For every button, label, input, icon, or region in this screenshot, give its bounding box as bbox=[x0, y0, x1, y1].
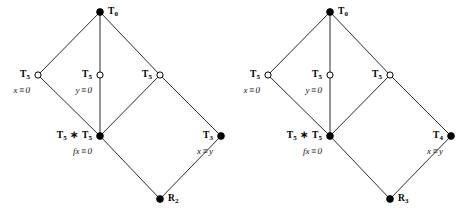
label-equation-T3: x≡y bbox=[197, 147, 213, 156]
label-subscript: 0 bbox=[344, 10, 348, 18]
equation-rhs: 0 bbox=[26, 85, 31, 95]
label-operator-star: ∗ bbox=[67, 130, 82, 140]
label-subscript-2: 5 bbox=[318, 134, 322, 142]
label-subscript: 3 bbox=[405, 197, 409, 205]
label-main-R3: R3 bbox=[398, 194, 409, 205]
label-equation-T5xT5: fx≡0 bbox=[57, 147, 92, 156]
label-T5-x: T5x≡0 bbox=[243, 70, 260, 95]
label-T5-y: T5y≡0 bbox=[75, 70, 92, 95]
equation-rhs: 0 bbox=[88, 85, 93, 95]
label-main-T5-r: T5 bbox=[142, 70, 152, 81]
label-main-R2: R2 bbox=[168, 194, 179, 205]
label-main-T5xT5: T5 ∗ T5 bbox=[287, 131, 322, 142]
equation-equiv-operator: ≡ bbox=[17, 85, 25, 95]
label-main-T4: T4 bbox=[427, 131, 443, 142]
label-main-T5-r: T5 bbox=[372, 70, 382, 81]
label-subscript-2: 5 bbox=[88, 134, 92, 142]
label-equation-T5-y: y≡0 bbox=[305, 86, 322, 95]
right-diagram: T0T5x≡0T5y≡0T5T5 ∗ T5fx≡0T4x≡yR3 bbox=[230, 0, 466, 221]
label-equation-T5-x: x≡0 bbox=[13, 86, 30, 95]
label-T3: T3x≡y bbox=[197, 131, 213, 156]
label-main-T3: T3 bbox=[197, 131, 213, 142]
label-T4: T4x≡y bbox=[427, 131, 443, 156]
label-main-T0: T0 bbox=[338, 7, 348, 18]
label-operator-star: ∗ bbox=[297, 130, 312, 140]
label-equation-T5-y: y≡0 bbox=[75, 86, 92, 95]
label-subscript: 5 bbox=[256, 73, 260, 81]
label-main-T5-y: T5 bbox=[305, 70, 322, 81]
label-T5-x: T5x≡0 bbox=[13, 70, 30, 95]
label-layer: T0T5x≡0T5y≡0T5T5 ∗ T5fx≡0T3x≡yR2 bbox=[0, 0, 236, 221]
label-main-T5xT5: T5 ∗ T5 bbox=[57, 131, 92, 142]
label-subscript: 5 bbox=[26, 73, 30, 81]
left-diagram: T0T5x≡0T5y≡0T5T5 ∗ T5fx≡0T3x≡yR2 bbox=[0, 0, 236, 221]
equation-rhs: 0 bbox=[318, 85, 323, 95]
label-layer: T0T5x≡0T5y≡0T5T5 ∗ T5fx≡0T4x≡yR3 bbox=[230, 0, 466, 221]
label-equation-T5xT5: fx≡0 bbox=[287, 147, 322, 156]
equation-equiv-operator: ≡ bbox=[309, 85, 317, 95]
label-main-T5-y: T5 bbox=[75, 70, 92, 81]
label-subscript: 5 bbox=[378, 73, 382, 81]
equation-equiv-operator: ≡ bbox=[79, 146, 87, 156]
label-subscript: 5 bbox=[88, 73, 92, 81]
equation-equiv-operator: ≡ bbox=[79, 85, 87, 95]
equation-rhs: 0 bbox=[256, 85, 261, 95]
equation-rhs: y bbox=[209, 146, 213, 156]
label-R2: R2 bbox=[168, 194, 179, 205]
label-equation-T5-x: x≡0 bbox=[243, 86, 260, 95]
equation-rhs: y bbox=[439, 146, 443, 156]
label-T5-r: T5 bbox=[372, 70, 382, 81]
label-T5xT5: T5 ∗ T5fx≡0 bbox=[57, 131, 92, 156]
label-R3: R3 bbox=[398, 194, 409, 205]
equation-equiv-operator: ≡ bbox=[201, 146, 209, 156]
label-T0: T0 bbox=[338, 7, 348, 18]
label-subscript: 2 bbox=[175, 197, 179, 205]
label-T5-r: T5 bbox=[142, 70, 152, 81]
equation-equiv-operator: ≡ bbox=[247, 85, 255, 95]
label-T0: T0 bbox=[108, 7, 118, 18]
equation-equiv-operator: ≡ bbox=[309, 146, 317, 156]
label-subscript: 5 bbox=[148, 73, 152, 81]
label-symbol: R bbox=[168, 193, 175, 203]
label-main-T5-x: T5 bbox=[243, 70, 260, 81]
equation-rhs: 0 bbox=[318, 146, 323, 156]
label-subscript: 4 bbox=[439, 134, 443, 142]
label-main-T5-x: T5 bbox=[13, 70, 30, 81]
label-subscript: 5 bbox=[318, 73, 322, 81]
equation-rhs: 0 bbox=[88, 146, 93, 156]
label-symbol: R bbox=[398, 193, 405, 203]
equation-equiv-operator: ≡ bbox=[431, 146, 439, 156]
label-T5xT5: T5 ∗ T5fx≡0 bbox=[287, 131, 322, 156]
hasse-diagram-figure: T0T5x≡0T5y≡0T5T5 ∗ T5fx≡0T3x≡yR2T0T5x≡0T… bbox=[0, 0, 471, 221]
label-subscript: 3 bbox=[209, 134, 213, 142]
label-subscript: 0 bbox=[114, 10, 118, 18]
label-equation-T4: x≡y bbox=[427, 147, 443, 156]
label-main-T0: T0 bbox=[108, 7, 118, 18]
label-T5-y: T5y≡0 bbox=[305, 70, 322, 95]
